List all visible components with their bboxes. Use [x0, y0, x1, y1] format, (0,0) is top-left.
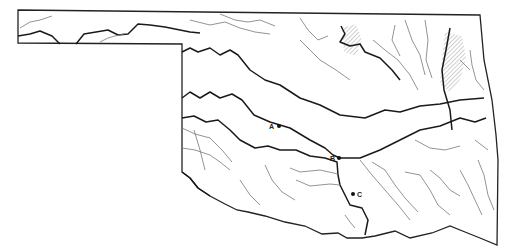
point-c-label: C: [357, 191, 362, 198]
reservoir-hatch: [342, 24, 362, 56]
minor-rivers: [20, 14, 494, 228]
oklahoma-river-map: A B C: [0, 0, 507, 251]
point-a-label: A: [269, 123, 274, 130]
state-border: [18, 10, 498, 245]
point-c: C: [351, 191, 362, 198]
major-rivers: [18, 24, 486, 235]
point-b-label: B: [330, 155, 335, 162]
